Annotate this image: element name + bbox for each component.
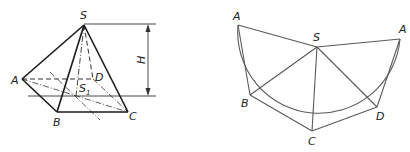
label-h: H	[135, 56, 148, 64]
chord-bc	[250, 95, 312, 131]
label-c: C	[129, 110, 137, 123]
label-s1: S1	[79, 82, 90, 97]
edge-sa-right	[317, 39, 400, 47]
arrow-down-icon	[146, 88, 151, 96]
edge-sa	[22, 25, 84, 79]
edge-sd-dev	[317, 47, 377, 107]
diagram-canvas: S A D B C S1 H A S A B C D	[0, 0, 410, 152]
chord-ab	[238, 25, 250, 95]
label-c-dev: C	[308, 135, 316, 148]
edge-sa-left	[238, 25, 317, 47]
edge-sb	[57, 25, 84, 112]
arrow-up-icon	[146, 24, 151, 32]
label-a-right: A	[398, 23, 407, 36]
label-d-dev: D	[376, 110, 384, 123]
label-a-left: A	[232, 10, 241, 23]
pyramid-figure: S A D B C S1 H	[10, 9, 156, 129]
label-a: A	[10, 74, 19, 87]
chord-cd	[312, 107, 377, 131]
chord-da	[377, 39, 400, 107]
label-d: D	[95, 71, 103, 84]
label-b: B	[53, 116, 61, 129]
edge-ab	[22, 79, 57, 112]
label-s: S	[80, 9, 87, 22]
edge-sc	[84, 25, 128, 112]
edge-sc-dev	[312, 47, 317, 131]
label-s-dev: S	[313, 31, 320, 44]
edge-sb-dev	[250, 47, 317, 95]
label-b-dev: B	[241, 97, 249, 110]
